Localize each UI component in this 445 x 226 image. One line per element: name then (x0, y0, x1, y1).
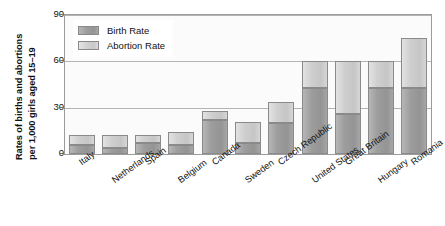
bar-segment-abortion-rate (69, 135, 95, 144)
bar-segment-abortion-rate (368, 61, 394, 87)
bar-segment-birth-rate (102, 148, 128, 154)
bar-segment-abortion-rate (302, 61, 328, 87)
legend-item-birth-rate: Birth Rate (78, 23, 165, 38)
x-tick-label-belgium: Belgium (176, 157, 209, 185)
y-axis-ticks: 0306090 (0, 0, 64, 166)
legend-label-birth-rate: Birth Rate (107, 25, 149, 36)
bar-great-britain (335, 61, 361, 154)
legend-swatch-abortion-rate-icon (78, 41, 99, 50)
bar-belgium (168, 132, 194, 154)
bar-segment-abortion-rate (102, 135, 128, 147)
x-tick-label-hungary: Hungary (376, 157, 410, 186)
bar-segment-birth-rate (401, 88, 427, 154)
bar-segment-abortion-rate (235, 122, 261, 144)
legend-item-abortion-rate: Abortion Rate (78, 38, 165, 53)
bar-segment-abortion-rate (268, 102, 294, 124)
bar-segment-abortion-rate (401, 38, 427, 87)
bar-czech-republic (268, 102, 294, 155)
bar-netherlands (102, 135, 128, 154)
bar-segment-abortion-rate (135, 135, 161, 143)
legend-swatch-birth-rate-icon (78, 26, 99, 35)
legend-label-abortion-rate: Abortion Rate (107, 40, 165, 51)
bar-segment-abortion-rate (168, 132, 194, 144)
x-axis-labels: ItalyNetherlandsSpainBelgiumCanadaSweden… (64, 155, 436, 226)
bar-segment-abortion-rate (335, 61, 361, 114)
x-tick-label-sweden: Sweden (243, 157, 276, 185)
bar-segment-birth-rate (168, 145, 194, 154)
bar-romania (401, 38, 427, 154)
chart-legend: Birth Rate Abortion Rate (73, 20, 173, 57)
bar-segment-abortion-rate (202, 111, 228, 120)
